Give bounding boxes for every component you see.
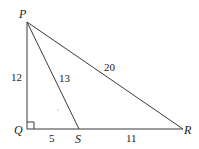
length-label-pr: 20 xyxy=(104,61,116,73)
length-label-pq: 12 xyxy=(11,71,22,83)
point-label-q: Q xyxy=(14,123,23,137)
point-label-r: R xyxy=(183,123,192,137)
point-label-s: S xyxy=(75,132,81,146)
point-label-p: P xyxy=(18,7,27,21)
length-label-sr: 11 xyxy=(126,132,137,144)
right-angle-marker xyxy=(27,122,34,129)
segment-ps xyxy=(27,22,79,129)
length-label-ps: 13 xyxy=(59,72,71,84)
segment-pr xyxy=(27,22,183,129)
dot-mark xyxy=(57,109,58,110)
triangle-diagram: P Q S R 12 13 20 5 11 xyxy=(0,0,199,149)
length-label-qs: 5 xyxy=(49,132,55,144)
